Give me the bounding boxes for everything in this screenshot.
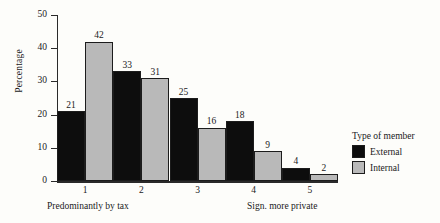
- y-axis-tick-label: 0: [21, 175, 47, 185]
- x-axis-tick-label-4: 4: [234, 185, 274, 195]
- bar-internal-5: 2: [310, 174, 338, 181]
- bar-group: 2516: [170, 15, 226, 181]
- legend-entries: ExternalInternal: [352, 145, 415, 174]
- y-axis-tick-label: 20: [21, 109, 47, 119]
- bar-group: 3331: [113, 15, 169, 181]
- bar-chart-figure: Percentage 01020304050 21423331251618942…: [0, 0, 440, 223]
- legend-item-external: External: [352, 145, 415, 158]
- bar-value-label: 31: [151, 68, 161, 78]
- y-axis-tick-label: 30: [21, 75, 47, 85]
- x-axis-anchor-left: Predominantly by tax: [47, 201, 129, 211]
- bar-value-label: 18: [235, 111, 245, 121]
- bar-value-label: 2: [322, 164, 327, 174]
- bar-internal-4: 9: [254, 151, 282, 181]
- legend-swatch-internal: [352, 161, 365, 174]
- bar-value-label: 42: [94, 31, 104, 41]
- bar-internal-3: 16: [198, 128, 226, 181]
- y-axis-tick-label: 40: [21, 42, 47, 52]
- x-axis-tick-label-5: 5: [290, 185, 330, 195]
- bar-internal-1: 42: [85, 42, 113, 181]
- bar-group: 2142: [57, 15, 113, 181]
- legend-item-internal: Internal: [352, 161, 415, 174]
- bar-group: 42: [282, 15, 338, 181]
- bar-value-label: 25: [179, 88, 189, 98]
- legend-label: External: [370, 147, 402, 157]
- x-axis-line: [57, 181, 338, 183]
- bar-value-label: 16: [207, 117, 217, 127]
- bar-external-3: 25: [170, 98, 198, 181]
- y-axis-tick-label: 50: [21, 9, 47, 19]
- x-axis-tick-label-1: 1: [65, 185, 105, 195]
- bar-value-label: 9: [265, 141, 270, 151]
- bar-group: 189: [226, 15, 282, 181]
- bar-value-label: 33: [123, 61, 133, 71]
- x-axis-tick-label-2: 2: [121, 185, 161, 195]
- legend: Type of member ExternalInternal: [352, 131, 415, 177]
- bar-external-5: 4: [282, 168, 310, 181]
- bar-value-label: 21: [66, 101, 76, 111]
- legend-title: Type of member: [352, 131, 415, 141]
- bar-external-1: 21: [57, 111, 85, 181]
- y-axis-tick-label: 10: [21, 142, 47, 152]
- bar-external-4: 18: [226, 121, 254, 181]
- bars-container: 21423331251618942: [57, 15, 338, 181]
- bar-internal-2: 31: [141, 78, 169, 181]
- x-axis-anchor-right: Sign. more private: [247, 201, 317, 211]
- legend-label: Internal: [370, 163, 400, 173]
- bar-external-2: 33: [113, 71, 141, 181]
- legend-swatch-external: [352, 145, 365, 158]
- x-axis-tick-label-3: 3: [178, 185, 218, 195]
- bar-value-label: 4: [294, 157, 299, 167]
